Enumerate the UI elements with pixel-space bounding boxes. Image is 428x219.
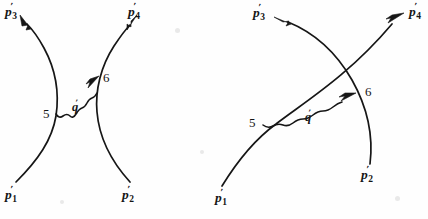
left-panel-exchange-label-q: q′ (72, 101, 78, 114)
left-panel-label-p4: p′4 (128, 5, 140, 22)
right-panel-p3-subscript: 3 (260, 12, 265, 22)
left-panel-arrowhead-p3 (20, 15, 31, 30)
right-panel-curve-p2-to-p3 (288, 22, 371, 164)
right-panel-label-p2: p′2 (361, 168, 373, 185)
right-panel-p4-subscript: 4 (416, 11, 421, 21)
right-panel-group (222, 13, 404, 186)
right-panel-vertex-label-5: 5 (249, 116, 256, 129)
left-panel-p1-subscript: 1 (12, 194, 17, 204)
right-panel-p2-subscript: 2 (368, 174, 373, 184)
right-panel-arrowhead-exchange (339, 93, 356, 101)
figure-root: p′1 p′2 p′3 p′4 5 6 q′ p′1 p′2 p′3 p′4 5… (0, 0, 428, 219)
left-panel-vertex-label-5: 5 (43, 107, 50, 120)
left-panel-arrowhead-exchange (86, 76, 99, 88)
left-panel-label-p2: p′2 (122, 188, 134, 205)
right-panel-wavy-exchange-line (263, 102, 342, 127)
diagram-svg-layer (0, 0, 428, 219)
left-panel-p3-subscript: 3 (12, 11, 17, 21)
right-panel-exchange-label-q: q′ (305, 111, 311, 124)
right-panel-p1-subscript: 1 (222, 197, 227, 207)
right-panel-label-p1: p′1 (215, 191, 227, 208)
right-panel-vertex-label-6: 6 (365, 85, 372, 98)
left-panel-vertex-label-6: 6 (103, 71, 110, 84)
right-panel-label-p4: p′4 (409, 5, 421, 22)
right-panel-arrowhead-p3 (274, 17, 291, 26)
left-panel-curve-p2-to-p4 (97, 25, 130, 182)
right-panel-arrowhead-p4 (386, 13, 404, 23)
right-panel-label-p3: p′3 (253, 6, 265, 23)
right-panel-curve-p1-to-p4 (222, 24, 392, 186)
left-panel-curve-p1-to-p3 (16, 24, 57, 182)
left-panel-p2-subscript: 2 (129, 194, 134, 204)
left-panel-label-p1: p′1 (5, 188, 17, 205)
left-panel-p4-subscript: 4 (135, 11, 140, 21)
left-panel-label-p3: p′3 (5, 5, 17, 22)
